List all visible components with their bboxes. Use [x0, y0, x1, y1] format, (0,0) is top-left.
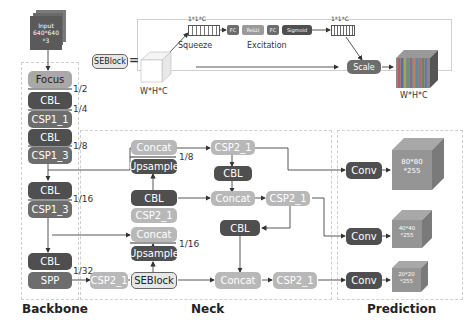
seblock-legend: SEBlock	[92, 54, 128, 69]
scale-label-1-16: 1/16	[73, 194, 93, 204]
input-channels: *3	[43, 37, 50, 44]
neck-csp2-1-right-mid: CSP2_1	[266, 191, 310, 206]
output-40-size: 40*40	[392, 225, 422, 232]
backbone-cbl-1: CBL	[28, 92, 72, 109]
input-label: Input	[38, 22, 54, 29]
prediction-conv-1: Conv	[346, 162, 382, 179]
prediction-conv-3: Conv	[346, 272, 382, 289]
backbone-cbl-4: CBL	[28, 253, 72, 270]
backbone-title: Backbone	[22, 302, 88, 316]
neck-cbl-mid: CBL	[131, 190, 177, 206]
scale-label-1-2: 1/2	[73, 84, 87, 94]
prediction-conv-2: Conv	[346, 228, 382, 245]
backbone-csp1-1: CSP1_1	[28, 111, 72, 128]
se-fc-1: FC	[227, 25, 239, 35]
se-squeeze-dims: 1*1*C	[188, 15, 206, 22]
backbone-cbl-2: CBL	[28, 129, 72, 146]
neck-concat-high: Concat	[131, 140, 177, 155]
prediction-title: Prediction	[367, 302, 436, 316]
scale-label-1-8: 1/8	[73, 141, 87, 151]
neck-upsample-low: Upsample	[131, 246, 177, 261]
neck-title: Neck	[191, 302, 224, 316]
se-input-dims: W*H*C	[140, 87, 168, 96]
neck-concat-low: Concat	[131, 227, 177, 242]
backbone-csp1-3b: CSP1_3	[28, 201, 72, 218]
output-40-channels: *255	[392, 232, 422, 239]
neck-concat-right-mid: Concat	[211, 191, 255, 206]
neck-csp2-1-right-low: CSP2_1	[273, 272, 317, 289]
se-output-dims: W*H*C	[400, 91, 428, 100]
se-fc-2: FC	[267, 25, 279, 35]
input-size: 640*640	[33, 29, 59, 36]
neck-concat-right-low: Concat	[215, 272, 261, 289]
se-weights-dims: 1*1*C	[331, 15, 349, 22]
neck-scale-1-8: 1/8	[179, 152, 193, 162]
squeeze-label: Squeeze	[178, 41, 212, 50]
neck-csp2-1-top: CSP2_1	[211, 140, 255, 155]
neck-seblock: SEBlock	[131, 272, 177, 289]
se-relu: ReLU	[242, 25, 264, 35]
neck-csp2-1-mid: CSP2_1	[131, 208, 177, 223]
backbone-spp: SPP	[28, 272, 72, 289]
se-sigmoid: Sigmoid	[282, 25, 312, 35]
neck-cbl-top: CBL	[214, 166, 252, 181]
excitation-label: Excitation	[247, 41, 287, 50]
neck-csp2-1-input: CSP2_1	[90, 272, 128, 289]
neck-cbl-right: CBL	[220, 220, 260, 236]
seblock-equals: =	[129, 53, 139, 67]
scale-label-1-4: 1/4	[73, 104, 87, 114]
weights-vector	[331, 25, 355, 36]
output-20-size: 20*20	[392, 271, 421, 278]
se-scale: Scale	[347, 60, 381, 74]
neck-upsample-high: Upsample	[131, 159, 177, 174]
backbone-cbl-3: CBL	[28, 182, 72, 199]
squeeze-vector	[188, 25, 220, 36]
output-20-channels: *255	[392, 278, 421, 285]
output-80-channels: *255	[392, 167, 432, 176]
neck-scale-1-16: 1/16	[179, 239, 199, 249]
output-80-size: 80*80	[392, 158, 432, 167]
focus-block: Focus	[28, 71, 72, 88]
backbone-csp1-3a: CSP1_3	[28, 147, 72, 164]
